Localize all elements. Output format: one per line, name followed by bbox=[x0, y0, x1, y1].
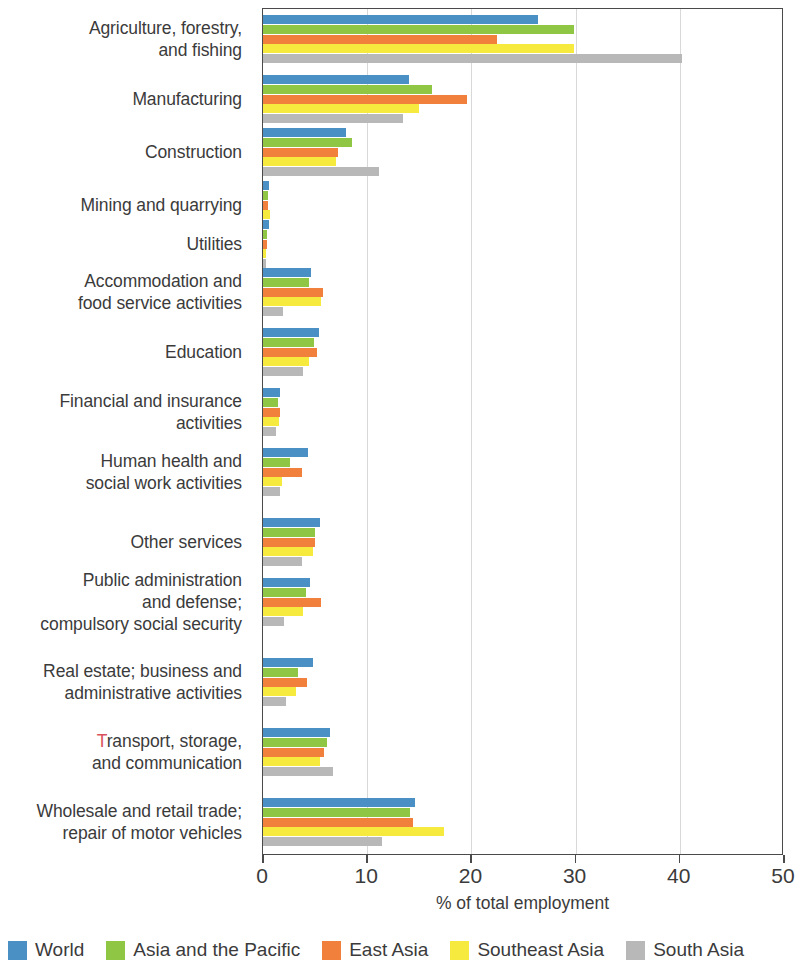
bar-group bbox=[263, 798, 782, 847]
bar bbox=[263, 15, 538, 24]
bar bbox=[263, 658, 313, 667]
y-axis-label: Accommodation andfood service activities bbox=[0, 270, 242, 314]
y-axis-label-line: Construction bbox=[0, 141, 242, 163]
bar-group bbox=[263, 75, 782, 124]
bar bbox=[263, 448, 308, 457]
legend-item[interactable]: Southeast Asia bbox=[450, 939, 604, 961]
legend-label: East Asia bbox=[349, 939, 428, 961]
bar bbox=[263, 757, 320, 766]
y-axis-label-line: compulsory social security bbox=[0, 613, 242, 635]
y-axis-label-line: social work activities bbox=[0, 472, 242, 494]
legend-swatch-icon bbox=[626, 941, 645, 960]
bar bbox=[263, 288, 323, 297]
bar bbox=[263, 738, 327, 747]
bar bbox=[263, 827, 444, 836]
x-axis-tick-label: 0 bbox=[256, 864, 268, 888]
bar-group bbox=[263, 518, 782, 567]
y-axis-label-line: Manufacturing bbox=[0, 88, 242, 110]
legend-swatch-icon bbox=[8, 941, 27, 960]
y-axis-label-line: activities bbox=[0, 412, 242, 434]
bar bbox=[263, 728, 330, 737]
y-axis-label: Mining and quarrying bbox=[0, 194, 242, 216]
bar bbox=[263, 25, 574, 34]
bar bbox=[263, 268, 311, 277]
legend-item[interactable]: East Asia bbox=[322, 939, 428, 961]
bar bbox=[263, 487, 280, 496]
y-axis-label-line: Education bbox=[0, 341, 242, 363]
bar bbox=[263, 167, 379, 176]
bar bbox=[263, 114, 403, 123]
bar bbox=[263, 547, 313, 556]
bar bbox=[263, 157, 336, 166]
y-axis-label: Financial and insuranceactivities bbox=[0, 390, 242, 434]
bar bbox=[263, 35, 497, 44]
chart-legend: WorldAsia and the PacificEast AsiaSouthe… bbox=[0, 934, 800, 966]
y-axis-category-labels: Agriculture, forestry,and fishingManufac… bbox=[0, 8, 252, 855]
bar bbox=[263, 697, 286, 706]
bar bbox=[263, 588, 306, 597]
legend-swatch-icon bbox=[322, 941, 341, 960]
bar bbox=[263, 85, 432, 94]
bar bbox=[263, 328, 319, 337]
bar bbox=[263, 307, 283, 316]
plot-area bbox=[262, 8, 783, 855]
legend-item[interactable]: World bbox=[8, 939, 84, 961]
y-axis-label: Utilities bbox=[0, 233, 242, 255]
bar-group bbox=[263, 578, 782, 627]
legend-item[interactable]: South Asia bbox=[626, 939, 744, 961]
bar bbox=[263, 278, 309, 287]
legend-swatch-icon bbox=[106, 941, 125, 960]
bar bbox=[263, 249, 266, 258]
y-axis-label-line: Transport, storage, bbox=[0, 730, 242, 752]
bar bbox=[263, 338, 314, 347]
y-axis-label-line: Wholesale and retail trade; bbox=[0, 800, 242, 822]
bar bbox=[263, 138, 352, 147]
bar bbox=[263, 75, 409, 84]
y-axis-label: Other services bbox=[0, 531, 242, 553]
x-axis-tick-label: 40 bbox=[667, 864, 690, 888]
bar bbox=[263, 201, 268, 210]
bar bbox=[263, 518, 320, 527]
bar bbox=[263, 191, 268, 200]
y-axis-label-line: food service activities bbox=[0, 292, 242, 314]
y-axis-label: Human health andsocial work activities bbox=[0, 450, 242, 494]
y-axis-label: Public administrationand defense;compuls… bbox=[0, 569, 242, 635]
bar bbox=[263, 598, 321, 607]
y-axis-label-line: Mining and quarrying bbox=[0, 194, 242, 216]
bar-group bbox=[263, 220, 782, 269]
bar-groups bbox=[263, 9, 782, 854]
bar bbox=[263, 477, 282, 486]
bar bbox=[263, 95, 467, 104]
y-axis-label-line: Public administration bbox=[0, 569, 242, 591]
bar bbox=[263, 259, 266, 268]
chart-figure: Agriculture, forestry,and fishingManufac… bbox=[0, 0, 800, 966]
bar bbox=[263, 348, 317, 357]
legend-item[interactable]: Asia and the Pacific bbox=[106, 939, 300, 961]
x-axis-tick-label: 20 bbox=[459, 864, 482, 888]
legend-label: World bbox=[35, 939, 84, 961]
bar bbox=[263, 408, 280, 417]
bar bbox=[263, 297, 321, 306]
bar bbox=[263, 798, 415, 807]
bar-group bbox=[263, 128, 782, 177]
bar bbox=[263, 181, 269, 190]
y-axis-label-line: Real estate; business and bbox=[0, 660, 242, 682]
y-axis-label-line: Utilities bbox=[0, 233, 242, 255]
bar bbox=[263, 417, 279, 426]
y-axis-label: Construction bbox=[0, 141, 242, 163]
x-axis: 01020304050 bbox=[262, 855, 783, 895]
bar bbox=[263, 607, 303, 616]
bar bbox=[263, 557, 302, 566]
y-axis-label: Transport, storage,and communication bbox=[0, 730, 242, 774]
bar-group bbox=[263, 728, 782, 777]
bar bbox=[263, 748, 324, 757]
bar bbox=[263, 367, 303, 376]
bar bbox=[263, 54, 682, 63]
y-axis-label-line: Agriculture, forestry, bbox=[0, 17, 242, 39]
bar bbox=[263, 220, 269, 229]
bar bbox=[263, 230, 267, 239]
bar bbox=[263, 357, 309, 366]
x-axis-tick-30 bbox=[575, 855, 577, 863]
bar bbox=[263, 668, 298, 677]
bar-group bbox=[263, 388, 782, 437]
